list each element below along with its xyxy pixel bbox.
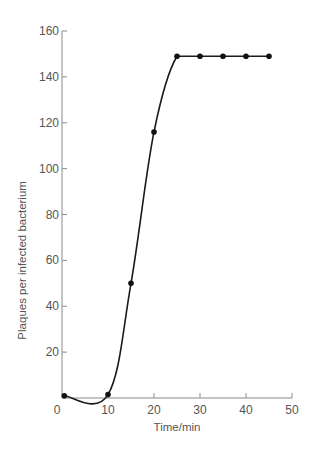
axes	[62, 31, 292, 398]
x-tick-label: 30	[193, 403, 207, 417]
y-tick-label: 60	[46, 253, 60, 267]
data-point	[128, 281, 134, 287]
y-tick-label: 80	[46, 208, 60, 222]
series-layer	[62, 53, 272, 403]
y-tick-label: 140	[39, 70, 59, 84]
x-tick-label: 20	[147, 403, 161, 417]
series-line	[64, 56, 269, 404]
data-point	[243, 53, 249, 59]
data-point	[62, 393, 68, 399]
data-point	[220, 53, 226, 59]
data-point	[266, 53, 272, 59]
y-ticks: 20406080100120140160	[39, 24, 67, 359]
y-tick-label: 120	[39, 116, 59, 130]
chart: 01020304050 20406080100120140160 Time/mi…	[0, 0, 313, 449]
data-point	[197, 53, 203, 59]
y-axis-title: Plaques per infected bacterium	[16, 181, 28, 340]
y-tick-label: 100	[39, 162, 59, 176]
x-tick-label: 0	[54, 403, 61, 417]
x-axis-title: Time/min	[154, 421, 201, 433]
data-point	[105, 392, 111, 398]
y-tick-label: 40	[46, 299, 60, 313]
y-tick-label: 20	[46, 345, 60, 359]
x-tick-label: 50	[285, 403, 299, 417]
data-point	[151, 129, 157, 135]
x-tick-label: 40	[239, 403, 253, 417]
data-point	[174, 53, 180, 59]
x-ticks: 01020304050	[54, 393, 299, 417]
y-tick-label: 160	[39, 24, 59, 38]
x-tick-label: 10	[101, 403, 115, 417]
